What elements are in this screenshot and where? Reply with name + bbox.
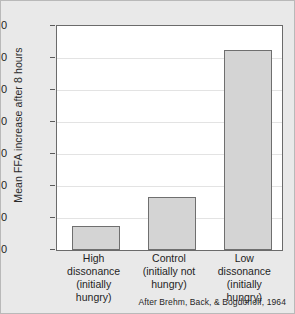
y-axis-tick-label: 100 <box>0 211 7 223</box>
bar <box>72 226 120 250</box>
y-axis-tick <box>50 25 55 26</box>
x-axis-category-label-line: dissonance <box>208 265 281 278</box>
x-axis-category-labels: Highdissonance(initially hungry)Control(… <box>56 252 282 298</box>
y-axis-tick <box>50 249 55 250</box>
y-axis-title: Mean FFA increase after 8 hours <box>7 1 29 249</box>
y-axis-tick <box>50 57 55 58</box>
y-axis-tick-label: 400 <box>0 115 7 127</box>
y-axis-tick <box>50 89 55 90</box>
x-axis-category-label-line: (initially hungry) <box>57 278 130 304</box>
bar <box>224 50 272 250</box>
x-axis-category-label-line: High <box>57 252 130 265</box>
x-axis-category-label: Highdissonance(initially hungry) <box>56 252 131 298</box>
y-axis-tick <box>50 185 55 186</box>
x-axis-category-label-line: dissonance <box>57 265 130 278</box>
x-axis-category-label-line: (initially not <box>132 265 205 278</box>
y-axis-tick-label: 300 <box>0 147 7 159</box>
x-axis-category-label-line: Control <box>132 252 205 265</box>
y-axis-tick <box>50 217 55 218</box>
x-axis-category-label: Lowdissonance(initially hungry) <box>207 252 282 298</box>
y-axis-tick-label: 700 <box>0 19 7 31</box>
plot-area <box>56 25 283 251</box>
x-axis-category-label: Control(initially nothungry) <box>131 252 206 298</box>
bar-chart-figure: Mean FFA increase after 8 hours 01002003… <box>0 0 295 314</box>
source-annotation: After Brehm, Back, & Bogdonoff, 1964 <box>138 297 286 307</box>
x-axis-category-label-line: hungry) <box>132 278 205 291</box>
y-axis-tick-label: 500 <box>0 83 7 95</box>
x-axis-category-label-line: Low <box>208 252 281 265</box>
y-axis-tick-label: 600 <box>0 51 7 63</box>
y-axis-tick <box>50 153 55 154</box>
y-axis-tick <box>50 121 55 122</box>
y-axis-tick-label: 200 <box>0 179 7 191</box>
bar <box>148 197 196 250</box>
